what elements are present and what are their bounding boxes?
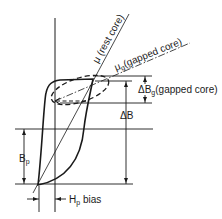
hysteresis-diagram: μ (rest core) μg(gapped core) ΔBg(gapped…	[0, 0, 222, 219]
svg-text:μg(gapped core): μg(gapped core)	[113, 36, 185, 75]
delta-b-label: ΔB	[120, 110, 134, 121]
delta-bg-label: ΔBg(gapped core)	[138, 84, 218, 97]
hp-right-arrowhead	[56, 197, 61, 201]
mu-gapped-core-label: μg(gapped core)	[113, 36, 185, 75]
mu-rest-core-line	[33, 14, 129, 193]
bp-arrowhead-top	[22, 130, 26, 135]
delta-b-arrowhead-bottom	[124, 178, 128, 183]
delta-bg-arrowhead-bottom	[143, 97, 147, 102]
bp-arrowhead-bottom	[22, 178, 26, 183]
delta-bg-arrowhead-top	[143, 77, 147, 82]
delta-b-arrowhead-top	[124, 82, 128, 87]
hp-left-arrowhead	[33, 197, 38, 201]
mu-rest-core-label: μ (rest core)	[90, 12, 126, 65]
hp-bias-label: Hp bias	[69, 194, 101, 207]
